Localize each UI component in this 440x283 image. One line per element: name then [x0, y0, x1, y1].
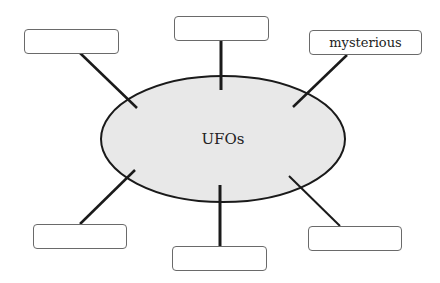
center-label: UFOs — [163, 126, 283, 152]
node-bottom-left[interactable] — [33, 224, 127, 249]
connector-bottom-right — [289, 176, 340, 226]
node-bottom-center[interactable] — [172, 246, 267, 271]
node-top-center[interactable] — [174, 16, 269, 41]
node-top-left[interactable] — [24, 29, 119, 54]
connector-top-right — [293, 55, 347, 107]
node-top-right[interactable]: mysterious — [309, 30, 422, 55]
connector-bottom-left — [80, 170, 135, 224]
node-bottom-right[interactable] — [308, 226, 402, 251]
connector-top-left — [80, 53, 137, 108]
